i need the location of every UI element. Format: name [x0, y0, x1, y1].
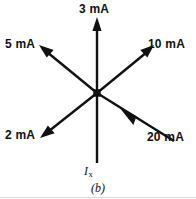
junction-dot [93, 89, 100, 96]
current-label-3ma: 3 mA [79, 3, 109, 15]
current-label-2ma: 2 mA [5, 129, 35, 141]
current-label-5ma: 5 mA [5, 38, 35, 50]
current-junction-figure: 3 mA 5 mA 10 mA 2 mA 20 mA Ix (b) [0, 0, 196, 199]
figure-caption: (b) [0, 182, 196, 194]
arrowhead-3ma-outward [92, 17, 101, 31]
branch-line-2ma [49, 93, 97, 131]
junction-diagram-svg [0, 0, 196, 199]
branch-line-5ma [47, 52, 97, 93]
current-label-10ma: 10 mA [148, 38, 185, 50]
current-label-ix: Ix [84, 165, 93, 179]
ix-subscript: x [88, 169, 93, 179]
bottom-divider [0, 197, 196, 198]
current-label-20ma: 20 mA [147, 131, 184, 143]
branch-line-10ma [97, 52, 147, 93]
arrowhead-20ma-inward [119, 107, 137, 125]
